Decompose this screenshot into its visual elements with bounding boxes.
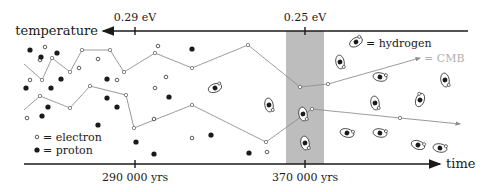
legend-proton: = proton — [34, 144, 92, 157]
hydrogen-icon — [410, 139, 426, 152]
electron-icon — [77, 66, 81, 70]
scatter-electron-icon — [122, 70, 125, 73]
photon-paths — [24, 43, 460, 143]
scatter-electron-icon — [40, 78, 43, 81]
scatter-electron-icon — [132, 126, 135, 129]
legend-hydrogen-label: = hydrogen — [366, 37, 432, 50]
legend-proton-label: = proton — [43, 144, 93, 157]
temperature-axis: temperature 0.29 eV0.25 eV — [15, 11, 468, 38]
scatter-electron-icon — [68, 70, 71, 73]
scatter-electron-icon — [153, 51, 156, 54]
hydrogen-icon — [348, 35, 364, 49]
proton-icon — [114, 104, 119, 109]
proton-icon — [38, 54, 43, 59]
electron-icon — [190, 136, 194, 140]
hydrogen-icon — [207, 82, 223, 95]
proton-icon — [104, 95, 109, 100]
scatter-electron-icon — [38, 94, 41, 97]
electron-icon — [153, 86, 157, 90]
proton-icon — [133, 139, 138, 144]
electron-icon — [265, 150, 269, 154]
legend-cmb: = CMB — [424, 52, 464, 65]
bottom-tick-label: 290 000 yrs — [102, 171, 168, 184]
scatter-electron-icon — [190, 66, 193, 69]
legend-electron: = electron — [35, 131, 102, 144]
electron-icon — [35, 135, 39, 139]
electron-icon — [156, 44, 160, 48]
electron-icon — [96, 57, 100, 61]
hydrogen-icon — [372, 72, 387, 83]
top-tick-label: 0.29 eV — [114, 11, 157, 24]
scatter-electron-icon — [50, 56, 53, 59]
scatter-electron-icon — [108, 48, 111, 51]
bottom-tick-label: 370 000 yrs — [272, 171, 338, 184]
hydrogen-icon — [339, 127, 355, 139]
hydrogen-icon — [440, 72, 451, 87]
proton-icon — [208, 132, 213, 137]
electron-icon — [28, 78, 32, 82]
scatter-electron-icon — [68, 106, 71, 109]
electron-icon — [164, 75, 168, 79]
proton-icon — [166, 94, 171, 99]
scatter-electron-icon — [298, 85, 301, 88]
recombination-diagram: temperature 0.29 eV0.25 eV time 290 000 … — [0, 0, 487, 192]
scatter-electron-icon — [190, 103, 193, 106]
top-tick-label: 0.25 eV — [284, 11, 327, 24]
hydrogen-icon — [414, 92, 427, 108]
legend-electron-label: = electron — [43, 131, 102, 144]
hydrogen-icon — [335, 54, 346, 69]
electron-icon — [152, 117, 156, 121]
time-axis: time 290 000 yrs370 000 yrs — [24, 156, 476, 184]
proton-icon — [54, 50, 59, 55]
hydrogen-atoms — [207, 54, 450, 153]
scatter-electron-icon — [326, 82, 329, 85]
electron-icon — [25, 116, 29, 120]
proton-icon — [246, 150, 251, 155]
scatter-electron-icon — [246, 43, 249, 46]
scatter-electron-icon — [310, 107, 313, 110]
hydrogen-icon — [372, 128, 387, 139]
proton-icon — [27, 47, 32, 52]
scatter-electron-icon — [124, 93, 127, 96]
legend-hydrogen: = hydrogen — [348, 35, 432, 50]
scatter-electron-icon — [80, 48, 83, 51]
proton-icon — [23, 85, 28, 90]
temperature-axis-label: temperature — [15, 23, 98, 38]
hydrogen-icon — [370, 95, 381, 110]
proton-icon — [95, 122, 100, 127]
proton-icon — [58, 76, 63, 81]
proton-icon — [39, 113, 44, 118]
proton-icon — [34, 147, 39, 152]
scatter-electron-icon — [264, 140, 267, 143]
proton-icon — [189, 46, 194, 51]
legend-cmb-label: = CMB — [424, 52, 464, 65]
hydrogen-icon — [348, 35, 364, 49]
hydrogen-icon — [264, 97, 275, 112]
time-axis-label: time — [446, 156, 476, 171]
proton-icon — [104, 76, 109, 81]
scatter-electron-icon — [88, 84, 91, 87]
electron-icon — [115, 78, 119, 82]
proton-icon — [151, 151, 156, 156]
scatter-electron-icon — [398, 116, 401, 119]
electron-icon — [43, 45, 47, 49]
proton-icon — [45, 104, 50, 109]
hydrogen-icon — [432, 143, 447, 154]
proton-icon — [48, 85, 53, 90]
